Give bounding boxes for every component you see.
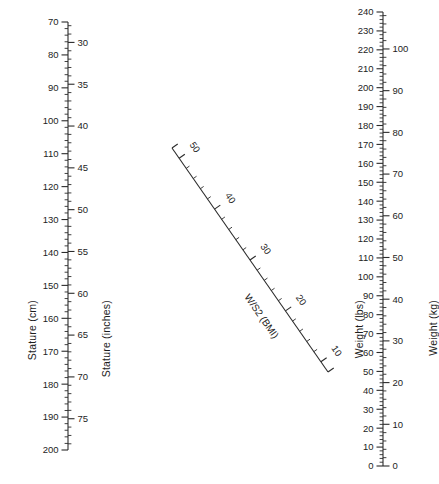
tick-label-stature-cm-160: 160 [43, 313, 59, 324]
tick-label-weight-lbs-210: 210 [358, 63, 374, 74]
bmi-axis-group: 1020304050W/S2 (BMI) [172, 140, 344, 372]
tick-label-stature-cm-90: 90 [48, 82, 59, 93]
tick-label-stature-cm-200: 200 [43, 444, 59, 455]
tick-label-stature-cm-120: 120 [43, 181, 59, 192]
tick-minor [271, 288, 274, 290]
tick-label-stature-cm-70: 70 [48, 16, 59, 27]
tick-label-weight-kg-10: 10 [393, 419, 404, 430]
tick-label-weight-lbs-240: 240 [358, 6, 374, 17]
tick-label-bmi-50: 50 [188, 140, 203, 155]
tick-label-weight-lbs-220: 220 [358, 44, 374, 55]
tick-label-bmi-10: 10 [329, 343, 344, 358]
tick-minor [293, 319, 296, 321]
tick-minor [236, 237, 239, 239]
tick-label-weight-kg-70: 70 [393, 168, 404, 179]
tick-major [179, 154, 185, 158]
tick-minor [222, 217, 225, 219]
tick-label-weight-lbs-190: 190 [358, 101, 374, 112]
tick-label-stature-cm-180: 180 [43, 379, 59, 390]
tick-minor [200, 186, 203, 188]
tick-major [215, 205, 221, 209]
tick-label-weight-kg-40: 40 [393, 294, 404, 305]
tick-label-weight-lbs-130: 130 [358, 214, 374, 225]
tick-label-weight-lbs-60: 60 [363, 347, 374, 358]
tick-label-weight-lbs-100: 100 [358, 271, 374, 282]
tick-label-weight-lbs-80: 80 [363, 309, 374, 320]
tick-major [285, 307, 291, 311]
tick-label-stature-cm-80: 80 [48, 49, 59, 60]
tick-minor [307, 339, 310, 341]
tick-label-stature-inches-35: 35 [78, 79, 89, 90]
tick-label-weight-lbs-140: 140 [358, 196, 374, 207]
tick-minor [314, 349, 317, 351]
tick-label-bmi-20: 20 [294, 292, 309, 307]
tick-label-weight-lbs-50: 50 [363, 366, 374, 377]
tick-label-bmi-40: 40 [223, 190, 238, 205]
tick-label-weight-lbs-90: 90 [363, 290, 374, 301]
tick-minor [257, 268, 260, 270]
tick-label-stature-cm-150: 150 [43, 280, 59, 291]
tick-label-weight-kg-60: 60 [393, 210, 404, 221]
nomogram-svg: 7080901001101201301401501601701801902003… [0, 0, 439, 484]
stature-axis-group: 7080901001101201301401501601701801902003… [43, 16, 88, 455]
tick-minor [243, 248, 246, 250]
tick-label-weight-lbs-170: 170 [358, 139, 374, 150]
tick-label-weight-lbs-230: 230 [358, 25, 374, 36]
tick-label-stature-cm-140: 140 [43, 247, 59, 258]
tick-label-weight-lbs-20: 20 [363, 423, 374, 434]
tick-label-stature-inches-70: 70 [78, 371, 89, 382]
tick-label-weight-kg-90: 90 [393, 85, 404, 96]
tick-label-weight-kg-50: 50 [393, 252, 404, 263]
tick-label-stature-inches-75: 75 [78, 413, 89, 424]
tick-label-weight-kg-30: 30 [393, 335, 404, 346]
tick-label-weight-kg-20: 20 [393, 377, 404, 388]
tick-label-weight-lbs-70: 70 [363, 328, 374, 339]
tick-label-stature-cm-110: 110 [43, 148, 58, 159]
tick-minor [229, 227, 232, 229]
tick-label-weight-lbs-180: 180 [358, 120, 374, 131]
tick-label-weight-lbs-0: 0 [368, 460, 373, 471]
weight-axis-group: 0102030405060708090100110120130140150160… [358, 6, 409, 471]
nomogram-canvas: Stature (cm) Stature (inches) Weight (lb… [0, 0, 439, 484]
tick-label-stature-inches-60: 60 [78, 288, 89, 299]
tick-label-stature-cm-130: 130 [43, 214, 59, 225]
tick-label-stature-cm-190: 190 [43, 411, 59, 422]
tick-label-stature-inches-30: 30 [78, 37, 89, 48]
tick-label-bmi-30: 30 [258, 241, 273, 256]
bmi-axis-endcap-high [172, 144, 178, 148]
tick-label-weight-lbs-160: 160 [358, 158, 374, 169]
tick-minor [300, 329, 303, 331]
tick-minor [264, 278, 267, 280]
tick-label-stature-cm-100: 100 [43, 115, 59, 126]
tick-label-stature-inches-40: 40 [78, 120, 89, 131]
tick-label-weight-kg-0: 0 [393, 460, 398, 471]
tick-label-weight-kg-80: 80 [393, 127, 404, 138]
tick-minor [278, 298, 281, 300]
tick-label-stature-inches-55: 55 [78, 246, 89, 257]
tick-major [321, 358, 327, 362]
tick-label-weight-lbs-110: 110 [358, 252, 373, 263]
axis-title-bmi: W/S2 (BMI) [242, 292, 281, 341]
tick-label-stature-cm-170: 170 [43, 346, 59, 357]
tick-label-weight-lbs-120: 120 [358, 233, 374, 244]
tick-label-weight-lbs-200: 200 [358, 82, 374, 93]
tick-label-weight-lbs-10: 10 [363, 441, 374, 452]
tick-label-stature-inches-50: 50 [78, 204, 89, 215]
tick-major [250, 256, 256, 260]
tick-minor [207, 197, 210, 199]
tick-label-weight-lbs-150: 150 [358, 177, 374, 188]
tick-minor [186, 166, 189, 168]
tick-label-stature-inches-45: 45 [78, 162, 89, 173]
tick-label-stature-inches-65: 65 [78, 329, 89, 340]
bmi-axis-endcap-low [328, 368, 334, 372]
tick-label-weight-lbs-30: 30 [363, 404, 374, 415]
tick-minor [193, 176, 196, 178]
tick-label-weight-lbs-40: 40 [363, 385, 374, 396]
tick-label-weight-kg-100: 100 [393, 43, 409, 54]
